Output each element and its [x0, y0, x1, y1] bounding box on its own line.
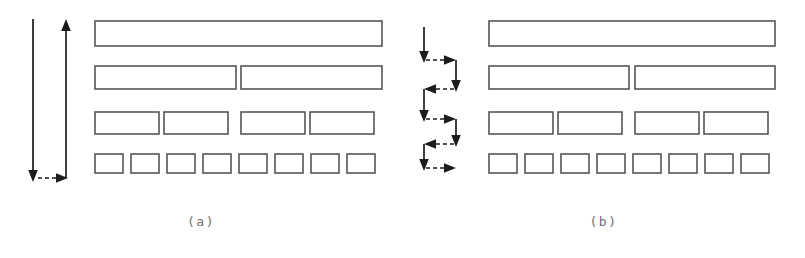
up-arrow — [61, 19, 71, 178]
block — [633, 154, 661, 173]
level-2-row — [95, 66, 382, 89]
zigzag-left-link-2 — [424, 139, 454, 149]
block — [489, 21, 775, 46]
zigzag-down-arrow-5 — [419, 144, 429, 171]
block — [241, 66, 382, 89]
panel-a-graphic — [0, 0, 402, 210]
block — [311, 154, 339, 173]
block — [597, 154, 625, 173]
zigzag-entry-down-arrow — [419, 27, 429, 63]
block — [489, 112, 553, 134]
block — [741, 154, 769, 173]
block — [95, 112, 159, 134]
panel-b-graphic — [402, 0, 805, 210]
dashed-turnaround-link — [38, 173, 68, 183]
zigzag-right-exit-link — [426, 163, 456, 173]
block — [525, 154, 553, 173]
block — [203, 154, 231, 173]
block — [95, 66, 236, 89]
level-1-row — [489, 21, 775, 46]
zigzag-right-link-2 — [426, 114, 456, 124]
level-4-row — [95, 154, 375, 173]
level-2-row — [489, 66, 775, 89]
block — [669, 154, 697, 173]
block — [131, 154, 159, 173]
block — [489, 66, 629, 89]
block — [635, 112, 699, 134]
zigzag-right-link-1 — [426, 55, 456, 65]
zigzag-down-arrow-4 — [451, 119, 461, 147]
panel-a-caption: (a) — [0, 214, 402, 229]
down-arrow — [28, 19, 38, 182]
traversal-arrows-vertical-pass — [28, 19, 71, 183]
level-3-row — [489, 112, 768, 134]
block — [561, 154, 589, 173]
level-3-row — [95, 112, 374, 134]
zigzag-down-arrow-2 — [451, 60, 461, 92]
panel-a: (a) — [0, 0, 402, 258]
figure-root: (a) — [0, 0, 805, 258]
level-4-row — [489, 154, 769, 173]
block — [167, 154, 195, 173]
traversal-arrows-zigzag — [419, 27, 461, 173]
panel-b: (b) — [402, 0, 805, 258]
zigzag-down-arrow-3 — [419, 89, 429, 122]
zigzag-left-link-1 — [424, 84, 454, 94]
block — [558, 112, 622, 134]
level-1-row — [95, 21, 382, 46]
block — [241, 112, 305, 134]
block — [705, 154, 733, 173]
block — [310, 112, 374, 134]
block — [95, 21, 382, 46]
block — [95, 154, 123, 173]
block — [347, 154, 375, 173]
block — [239, 154, 267, 173]
block — [489, 154, 517, 173]
block — [704, 112, 768, 134]
block — [275, 154, 303, 173]
panel-b-caption: (b) — [402, 214, 805, 229]
block — [164, 112, 228, 134]
block — [635, 66, 775, 89]
